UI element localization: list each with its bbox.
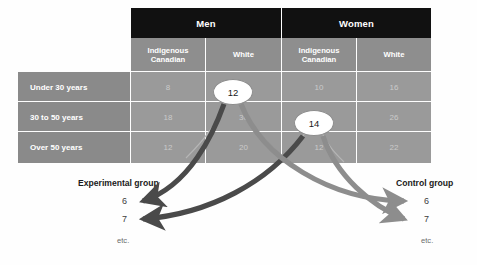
figure-canvas: Men Women Indigenous Canadian White Indi… bbox=[0, 0, 477, 265]
callout-ellipse-14: 14 bbox=[294, 110, 334, 136]
arrow-layer bbox=[0, 0, 477, 265]
arrow-control-7 bbox=[323, 136, 404, 219]
arrow-experimental-6 bbox=[143, 104, 224, 201]
callout-ellipse-12: 12 bbox=[213, 79, 253, 105]
arrow-experimental-7 bbox=[143, 136, 303, 219]
